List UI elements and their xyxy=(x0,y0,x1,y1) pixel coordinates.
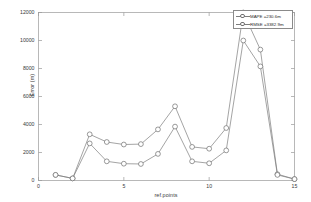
y-tick-label: 0 xyxy=(32,177,35,183)
chart-plot-area: 020004000600080001000012000 051015 xyxy=(0,0,311,202)
data-point-marker xyxy=(258,64,263,69)
x-axis-title-text: ref.points xyxy=(154,192,177,198)
legend-item-mape[interactable]: MAPE =230.6m xyxy=(236,13,290,21)
y-tick-label: 4000 xyxy=(23,121,35,127)
data-point-marker xyxy=(241,38,246,43)
plot-frame xyxy=(39,13,295,181)
y-tick-label: 12000 xyxy=(20,9,35,15)
data-point-marker xyxy=(139,142,144,147)
series-rmse xyxy=(53,38,297,181)
data-point-marker xyxy=(156,127,161,132)
data-point-marker xyxy=(104,140,109,145)
data-point-marker xyxy=(156,152,161,157)
data-point-marker xyxy=(190,145,195,150)
data-point-marker xyxy=(70,176,75,181)
data-point-marker xyxy=(121,161,126,166)
data-series-group xyxy=(53,10,297,181)
series-line xyxy=(56,41,295,180)
legend-label-mape: MAPE =230.6m xyxy=(250,13,281,21)
data-point-marker xyxy=(121,142,126,147)
data-point-marker xyxy=(139,162,144,167)
data-point-marker xyxy=(190,159,195,164)
axis-frame xyxy=(39,13,295,181)
data-point-marker xyxy=(53,173,58,178)
y-axis-title: Error (m) xyxy=(20,60,34,110)
x-axis-ticks: 051015 xyxy=(37,13,297,190)
data-point-marker xyxy=(207,161,212,166)
data-point-marker xyxy=(104,159,109,164)
x-tick-label: 0 xyxy=(37,183,40,189)
data-point-marker xyxy=(87,132,92,137)
legend-label-rmse: RMSE =3382.9m xyxy=(250,21,284,29)
data-point-marker xyxy=(224,148,229,153)
y-tick-label: 10000 xyxy=(20,37,35,43)
data-point-marker xyxy=(275,173,280,178)
x-tick-label: 10 xyxy=(206,183,212,189)
series-line xyxy=(56,13,295,180)
data-point-marker xyxy=(87,141,92,146)
data-point-marker xyxy=(173,124,178,129)
legend-marker-icon xyxy=(236,13,250,21)
data-point-marker xyxy=(292,177,297,182)
legend-marker-icon xyxy=(236,21,250,29)
data-point-marker xyxy=(258,47,263,52)
x-axis-title: ref.points xyxy=(131,183,201,201)
data-point-marker xyxy=(224,126,229,131)
series-mape xyxy=(53,10,297,181)
y-axis-ticks: 020004000600080001000012000 xyxy=(20,9,294,183)
data-point-marker xyxy=(207,146,212,151)
x-tick-label: 15 xyxy=(292,183,298,189)
figure-canvas: 020004000600080001000012000 051015 Error… xyxy=(0,0,311,202)
y-axis-title-text: Error (m) xyxy=(29,74,35,96)
data-point-marker xyxy=(173,104,178,109)
x-tick-label: 5 xyxy=(122,183,125,189)
chart-legend[interactable]: MAPE =230.6m RMSE =3382.9m xyxy=(233,10,293,29)
legend-item-rmse[interactable]: RMSE =3382.9m xyxy=(236,21,290,29)
y-tick-label: 2000 xyxy=(23,149,35,155)
